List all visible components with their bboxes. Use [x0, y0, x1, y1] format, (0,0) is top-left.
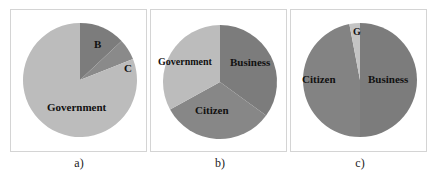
- pie-panel-c: G Citizen Business: [290, 9, 427, 152]
- pie-b-label-citizen: Citizen: [195, 104, 229, 116]
- pie-a-label-b: B: [94, 38, 102, 50]
- pie-panel-b: Government Business Citizen: [150, 9, 287, 152]
- caption-a: a): [74, 156, 83, 171]
- pie-b-slices: [163, 25, 277, 139]
- pie-b-label-government: Government: [158, 56, 213, 67]
- pie-c-label-business: Business: [368, 73, 409, 85]
- pie-chart-c: G Citizen Business: [291, 10, 428, 153]
- pie-chart-b: Government Business Citizen: [151, 10, 288, 153]
- caption-b: b): [215, 156, 225, 171]
- pie-c-label-citizen: Citizen: [302, 73, 336, 85]
- pie-a-label-government: Government: [47, 101, 107, 113]
- caption-c: c): [355, 156, 364, 171]
- pie-panel-a: B C Government: [10, 9, 147, 152]
- pie-b-label-business: Business: [230, 56, 271, 68]
- pie-chart-a: B C Government: [11, 10, 148, 153]
- pie-a-slices: [23, 23, 137, 137]
- pie-c-label-g: G: [353, 26, 361, 37]
- pie-a-label-c: C: [124, 62, 132, 74]
